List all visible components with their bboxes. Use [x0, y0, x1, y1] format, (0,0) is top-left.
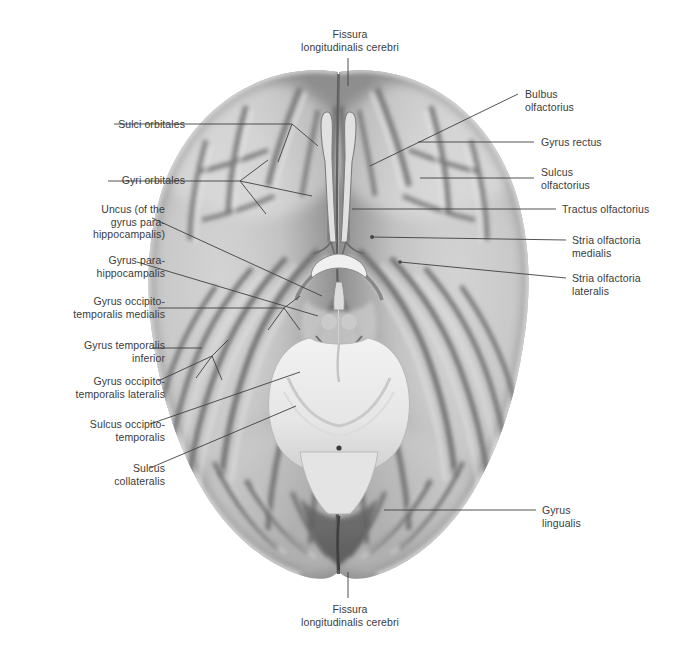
label-gyrus-rectus: Gyrus rectus — [541, 136, 676, 149]
label-sulcus-olfactorius: Sulcus olfactorius — [541, 166, 676, 191]
label-uncus: Uncus (of the gyrus para- hippocampalis) — [10, 203, 165, 241]
label-sulcus-occipitotemporalis: Sulcus occipito- temporalis — [10, 418, 165, 443]
figure-canvas: Fissura longitudinalis cerebri Fissura l… — [0, 0, 677, 661]
label-gyri-orbitales: Gyri orbitales — [10, 174, 185, 187]
label-gyrus-lingualis: Gyrus lingualis — [542, 504, 672, 529]
label-fissura-longitudinalis-bottom: Fissura longitudinalis cerebri — [290, 603, 410, 628]
label-gyrus-occipitotemporalis-lateralis: Gyrus occipito- temporalis lateralis — [10, 375, 165, 400]
label-gyrus-parahippocampalis: Gyrus para- hippocampalis — [10, 254, 165, 279]
label-stria-olfactoria-lateralis: Stria olfactoria lateralis — [572, 272, 677, 297]
label-sulci-orbitales: Sulci orbitales — [10, 118, 185, 131]
label-stria-olfactoria-medialis: Stria olfactoria medialis — [572, 234, 677, 259]
label-gyrus-temporalis-inferior: Gyrus temporalis inferior — [10, 339, 165, 364]
label-tractus-olfactorius: Tractus olfactorius — [562, 203, 677, 216]
label-fissura-longitudinalis-top: Fissura longitudinalis cerebri — [290, 28, 410, 53]
label-sulcus-collateralis: Sulcus collateralis — [10, 462, 165, 487]
label-bulbus-olfactorius: Bulbus olfactorius — [525, 88, 670, 113]
label-gyrus-occipitotemporalis-medialis: Gyrus occipito- temporalis medialis — [10, 295, 165, 320]
